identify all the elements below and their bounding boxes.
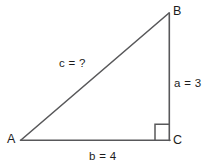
side-label-a-vertical: a = 3 [174, 77, 201, 89]
side-label-c-hypotenuse: c = ? [59, 57, 86, 69]
vertex-label-a: A [7, 133, 15, 145]
right-angle-square-icon [155, 124, 170, 140]
side-c-hypotenuse-line [21, 13, 169, 140]
vertex-label-c: C [173, 134, 182, 146]
side-label-b-horizontal: b = 4 [89, 150, 116, 162]
right-triangle-figure: A B C c = ? a = 3 b = 4 [0, 0, 214, 168]
vertex-label-b: B [173, 5, 181, 17]
